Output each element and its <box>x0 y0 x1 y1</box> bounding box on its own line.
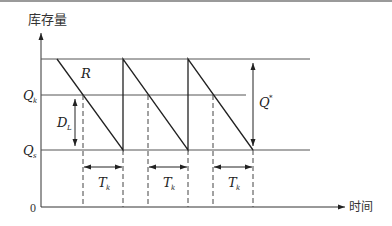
rate-label: R <box>80 66 91 81</box>
svg-text:*: * <box>269 94 273 102</box>
order-qty-label: Q * <box>259 94 273 110</box>
origin-label: 0 <box>30 201 36 215</box>
inventory-diagram: 库存量 时间 0 R Q k Q s D L Q * T k T k T <box>0 0 392 226</box>
svg-text:k: k <box>106 184 110 192</box>
reorder-level-label: Q k <box>23 88 37 105</box>
lead-time-label-3: T k <box>228 175 240 192</box>
lead-time-label-1: T k <box>98 175 110 192</box>
lead-demand-label: D L <box>56 115 72 132</box>
svg-text:k: k <box>33 97 37 105</box>
svg-text:k: k <box>236 184 240 192</box>
y-axis-label: 库存量 <box>28 12 67 27</box>
safety-level-label: Q s <box>23 143 37 160</box>
svg-text:k: k <box>171 184 175 192</box>
svg-text:L: L <box>66 124 72 132</box>
lead-time-label-2: T k <box>163 175 175 192</box>
svg-text:s: s <box>33 152 37 160</box>
x-axis-label: 时间 <box>349 200 373 214</box>
diagram-canvas: 库存量 时间 0 R Q k Q s D L Q * T k T k T <box>0 0 392 226</box>
